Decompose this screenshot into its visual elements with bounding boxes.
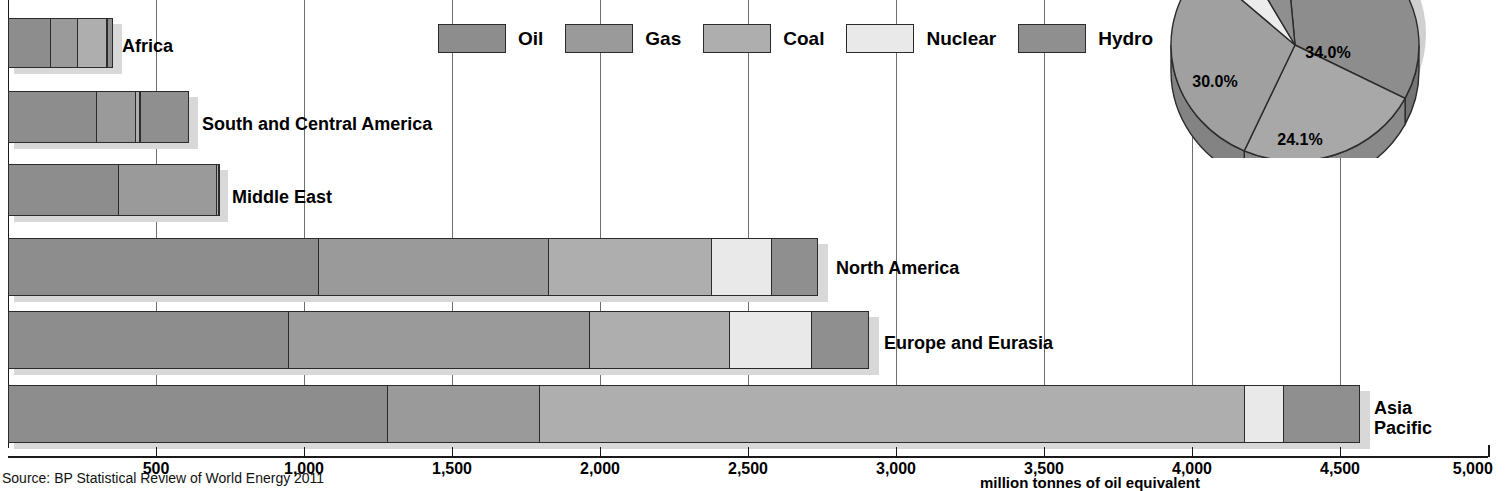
axis-tick (600, 447, 601, 457)
bar-segment-hydro (1283, 385, 1360, 443)
bar-stack (8, 311, 869, 369)
legend-swatch-hydro (1018, 24, 1086, 53)
bar-segment-gas (288, 311, 590, 369)
axis-tick-label: 2,000 (580, 460, 620, 478)
axis-tick (748, 447, 749, 457)
bar-segment-hydro (107, 18, 114, 68)
bar-stack (8, 18, 113, 68)
legend: OilGasCoalNuclearHydro (438, 24, 1175, 53)
bar-segment-coal (77, 18, 107, 68)
axis-tick (304, 447, 305, 457)
legend-item-coal[interactable]: Coal (703, 24, 824, 53)
legend-label: Gas (645, 28, 681, 50)
legend-label: Oil (518, 28, 543, 50)
bar-segment-gas (387, 385, 539, 443)
gridline (600, 0, 601, 448)
gridline (156, 0, 157, 448)
legend-item-gas[interactable]: Gas (565, 24, 681, 53)
axis-tick (1044, 447, 1045, 457)
bar-segment-gas (118, 164, 217, 216)
legend-item-hydro[interactable]: Hydro (1018, 24, 1153, 53)
bar-label-south-and-central-america: South and Central America (202, 114, 432, 134)
legend-label: Coal (783, 28, 824, 50)
bar-label-asia-pacific: Asia Pacific (1374, 398, 1432, 438)
bar-segment-oil (8, 18, 51, 68)
bar-segment-nuclear (729, 311, 812, 369)
bar-label-africa: Africa (122, 36, 173, 56)
bar-label-north-america: North America (836, 258, 959, 278)
axis-tick-label: 4,500 (1320, 460, 1360, 478)
bar-segment-gas (318, 238, 549, 296)
bar-segment-coal (589, 311, 730, 369)
bar-stack (8, 164, 220, 216)
axis-tick (896, 447, 897, 457)
legend-swatch-oil (438, 24, 506, 53)
axis-tick-label: 2,500 (728, 460, 768, 478)
gridline (304, 0, 305, 448)
energy-mix-pie-chart: 34.0% 30.0% 24.1% (1160, 0, 1430, 158)
pie-label-coal: 24.1% (1277, 131, 1322, 149)
legend-swatch-nuclear (846, 24, 914, 53)
gridline (452, 0, 453, 448)
bar-segment-oil (8, 238, 319, 296)
bar-segment-hydro (811, 311, 869, 369)
legend-item-oil[interactable]: Oil (438, 24, 543, 53)
bar-segment-hydro (218, 164, 220, 216)
bar-stack (8, 238, 818, 296)
bar-label-europe-and-eurasia: Europe and Eurasia (884, 333, 1053, 353)
bar-segment-gas (50, 18, 78, 68)
axis-tick-label: 5,000 (1453, 460, 1493, 478)
legend-label: Nuclear (926, 28, 996, 50)
axis-tick (1488, 445, 1490, 457)
bar-label-middle-east: Middle East (232, 187, 332, 207)
pie-label-oil: 34.0% (1305, 44, 1350, 62)
bar-segment-coal (548, 238, 712, 296)
bar-segment-nuclear (711, 238, 772, 296)
bar-stack (8, 385, 1360, 443)
bar-segment-oil (8, 164, 119, 216)
axis-tick (1340, 447, 1341, 457)
bar-segment-oil (8, 311, 289, 369)
axis-title: million tonnes of oil equivalent (980, 474, 1200, 491)
gridline (896, 0, 897, 448)
axis-tick (452, 447, 453, 457)
legend-item-nuclear[interactable]: Nuclear (846, 24, 996, 53)
bar-segment-coal (539, 385, 1245, 443)
gridline (748, 0, 749, 448)
bar-segment-gas (96, 91, 136, 143)
gridline (1044, 0, 1045, 448)
bar-segment-oil (8, 91, 97, 143)
legend-label: Hydro (1098, 28, 1153, 50)
pie-label-gas: 30.0% (1192, 73, 1237, 91)
source-note: Source: BP Statistical Review of World E… (2, 470, 324, 486)
bar-segment-oil (8, 385, 388, 443)
bar-segment-nuclear (1244, 385, 1284, 443)
axis-tick (156, 447, 157, 457)
bar-segment-hydro (140, 91, 189, 143)
legend-swatch-coal (703, 24, 771, 53)
legend-swatch-gas (565, 24, 633, 53)
bar-stack (8, 91, 189, 143)
axis-tick (1192, 447, 1193, 457)
axis-tick-label: 1,500 (432, 460, 472, 478)
axis-tick-label: 3,000 (876, 460, 916, 478)
bar-segment-hydro (771, 238, 818, 296)
